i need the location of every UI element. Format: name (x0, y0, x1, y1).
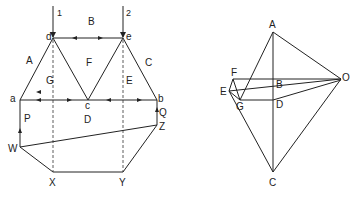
force-label-o: O (342, 72, 350, 83)
force-label-a: A (269, 19, 276, 30)
funicular-polygon (20, 125, 157, 172)
member-dc (53, 38, 88, 100)
reaction-arrow-p (18, 128, 22, 133)
ray-ao (273, 32, 341, 79)
member-ad (20, 38, 53, 100)
reaction-label-p: P (24, 113, 31, 124)
reaction-label-q: Q (159, 107, 167, 118)
force-label-d: D (276, 99, 283, 110)
joint-label-b: b (158, 93, 164, 104)
closing-line-wz (20, 125, 157, 147)
space-label-c: C (145, 57, 152, 68)
force-diagram: A B D C O F E G (220, 19, 350, 188)
funicular-label-z: Z (159, 121, 165, 132)
space-label-e: E (126, 75, 133, 86)
truss-diagram: 1 2 B d e A C F G E a b c D P Q Z W X Y (8, 6, 167, 188)
space-label-a: A (26, 55, 33, 66)
force-label-f: F (231, 67, 237, 78)
joint-label-e: e (126, 31, 132, 42)
member-eb (123, 38, 157, 100)
joint-label-a: a (10, 93, 16, 104)
funicular-label-y: Y (119, 177, 126, 188)
space-label-f: F (86, 57, 92, 68)
force-label-e: E (220, 86, 227, 97)
funicular-label-x: X (49, 177, 56, 188)
member-ce (88, 38, 123, 100)
space-label-b: B (88, 16, 95, 27)
load-label-1: 1 (57, 8, 62, 18)
diagram-canvas: 1 2 B d e A C F G E a b c D P Q Z W X Y … (0, 0, 358, 197)
force-label-b: B (276, 79, 283, 90)
ray-co (273, 79, 341, 172)
force-label-g: G (236, 101, 244, 112)
load-label-2: 2 (126, 8, 131, 18)
space-label-d: D (84, 114, 91, 125)
line-ag (240, 32, 273, 100)
force-label-c: C (269, 177, 276, 188)
joint-label-d: d (46, 31, 52, 42)
funicular-label-w: W (8, 143, 18, 154)
space-label-g: G (46, 75, 54, 86)
joint-label-c: c (85, 100, 90, 111)
